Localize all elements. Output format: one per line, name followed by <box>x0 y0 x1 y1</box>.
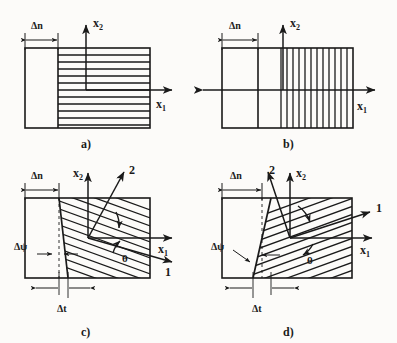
panel-c-label-axis-2: 2 <box>129 163 135 177</box>
panel-d-label-delta-n: Δn <box>230 170 242 181</box>
panel-c-dimension-delta-t <box>36 272 90 298</box>
panel-c-label-x1: x1 <box>158 242 168 258</box>
panel-d-label-x2: x2 <box>296 166 306 182</box>
panel-c-label-delta-t: Δt <box>57 303 67 314</box>
panel-d-label-x1: x1 <box>360 243 370 259</box>
panel-b <box>203 25 375 128</box>
panel-a-block <box>25 48 150 128</box>
panel-c-label-delta-psi: Δψ <box>14 241 27 252</box>
panel-c-label-delta-n: Δn <box>31 170 43 181</box>
panel-d-label-delta-t: Δt <box>252 303 262 314</box>
panel-c-label-axis-1: 1 <box>165 265 171 279</box>
panel-a <box>25 25 172 128</box>
panel-a-label-x2: x2 <box>93 16 103 32</box>
panel-b-label-delta-n: Δn <box>229 20 241 31</box>
panel-a-label-delta-n: Δn <box>31 20 43 31</box>
panel-c-caption: c) <box>81 325 90 339</box>
panel-d-label-delta-psi: Δψ <box>211 241 224 252</box>
panel-c <box>25 170 175 307</box>
figure-container: Δn x2 x1 a) Δn x2 x1 b) Δn x2 2 x1 1 Δψ … <box>0 0 397 343</box>
panel-d-label-axis-1: 1 <box>376 201 382 215</box>
panel-d-label-theta: θ <box>307 254 313 266</box>
panel-b-hatching <box>263 48 347 128</box>
panel-c-label-x2: x2 <box>73 166 83 182</box>
panel-b-label-x1: x1 <box>357 99 367 115</box>
panel-d-hatching <box>235 176 370 313</box>
panel-b-label-x2: x2 <box>290 16 300 32</box>
panel-a-label-x1: x1 <box>156 97 166 113</box>
panel-d-caption: d) <box>283 325 294 339</box>
panel-c-label-theta: θ <box>122 252 128 264</box>
panel-b-caption: b) <box>283 137 294 151</box>
panel-d-label-axis-2: 2 <box>269 163 275 177</box>
panel-a-caption: a) <box>81 137 91 151</box>
panel-d-dimension-delta-t <box>230 272 294 298</box>
panel-d <box>222 172 372 313</box>
